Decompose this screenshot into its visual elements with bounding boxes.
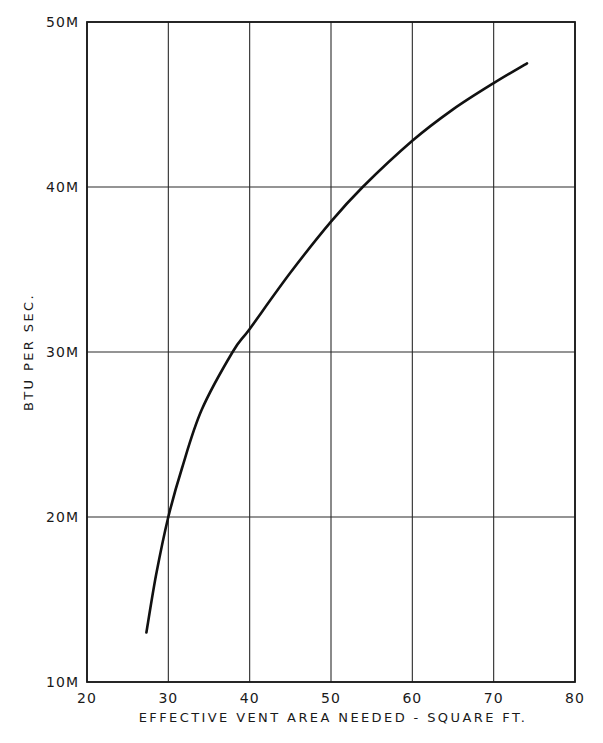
chart: 20304050607080 10M20M30M40M50M EFFECTIVE… [0, 0, 603, 743]
x-tick-label: 50 [321, 690, 341, 706]
y-axis-title: BTU PER SEC. [21, 293, 36, 411]
grid-lines [87, 22, 575, 682]
x-tick-label: 70 [484, 690, 504, 706]
y-tick-label: 40M [46, 179, 79, 195]
y-tick-label: 30M [46, 344, 79, 360]
y-tick-label: 20M [46, 509, 79, 525]
x-axis-title: EFFECTIVE VENT AREA NEEDED - SQUARE FT. [139, 710, 528, 725]
data-curve [146, 63, 527, 632]
x-tick-label: 30 [158, 690, 178, 706]
y-tick-label: 10M [46, 674, 79, 690]
x-tick-label: 80 [565, 690, 585, 706]
y-axis-tick-labels: 10M20M30M40M50M [46, 14, 79, 690]
x-tick-label: 20 [77, 690, 97, 706]
y-tick-label: 50M [46, 14, 79, 30]
x-tick-label: 40 [240, 690, 260, 706]
x-axis-tick-labels: 20304050607080 [77, 690, 585, 706]
x-tick-label: 60 [402, 690, 422, 706]
